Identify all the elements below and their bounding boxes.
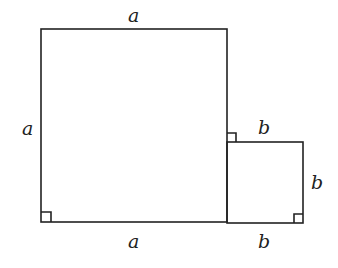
label-small-top: b bbox=[258, 116, 270, 138]
big-square bbox=[41, 29, 227, 222]
two-squares-diagram: a a a b b b bbox=[0, 0, 338, 268]
right-angle-mark-small-bottom-right bbox=[294, 214, 303, 223]
label-big-bottom: a bbox=[128, 230, 139, 252]
right-angle-mark-junction bbox=[227, 133, 236, 142]
label-big-top: a bbox=[128, 4, 139, 26]
label-small-right: b bbox=[311, 171, 323, 193]
label-big-left: a bbox=[22, 117, 33, 139]
small-square bbox=[227, 142, 303, 223]
right-angle-mark-big-bottom-left bbox=[41, 212, 51, 222]
label-small-bottom: b bbox=[258, 230, 270, 252]
